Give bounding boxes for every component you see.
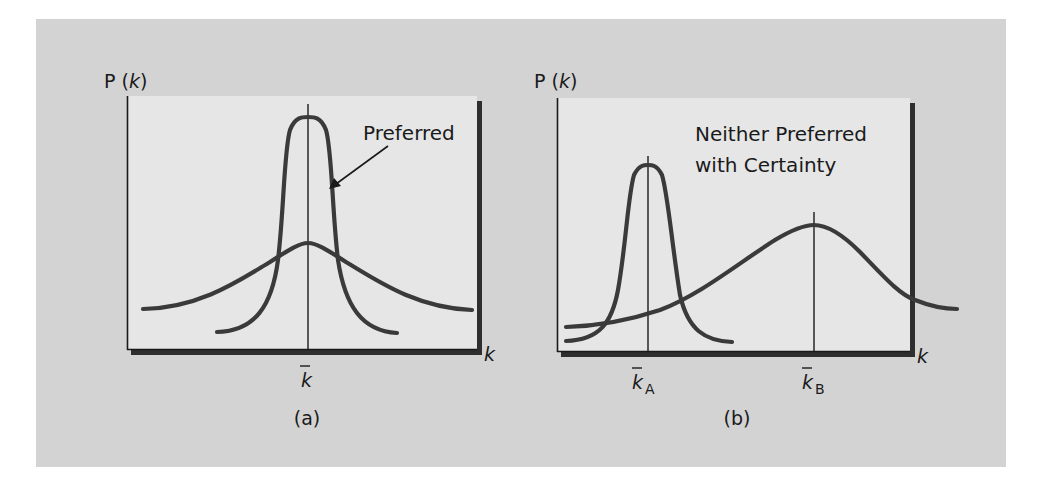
annotation-neither-line1: Neither Preferred: [695, 122, 867, 146]
figure: Preferred P (k) k k (a) Neither Preferre…: [0, 0, 1037, 491]
svg-text:k: k: [802, 371, 814, 393]
caption-a: (a): [294, 407, 320, 429]
annotation-neither-line2: with Certainty: [695, 153, 836, 177]
svg-text:k: k: [301, 369, 313, 391]
svg-text:k: k: [632, 371, 644, 393]
svg-text:B: B: [815, 381, 825, 397]
svg-text:A: A: [645, 381, 655, 397]
annotation-preferred: Preferred: [363, 121, 455, 145]
x-axis-label-a: k: [484, 343, 496, 365]
caption-b: (b): [724, 407, 751, 429]
y-axis-label-b: P (k): [534, 70, 577, 92]
x-axis-label-b: k: [917, 345, 929, 367]
tick-label-k-bar: k: [300, 366, 313, 391]
y-axis-label-a: P (k): [104, 70, 147, 92]
